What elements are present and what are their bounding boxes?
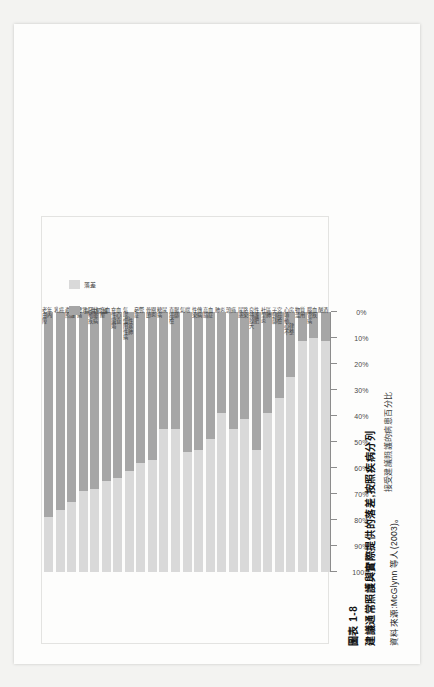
bar-segment-care	[56, 312, 65, 510]
category-label: 酗酒	[318, 308, 330, 313]
chart-panel: 100%90%80%70%60%50%40%30%20%10%0% 老年白內障乳…	[39, 216, 395, 646]
category-label: 社區型肺炎	[261, 308, 273, 324]
bar-row	[240, 312, 249, 572]
bar-row	[194, 312, 203, 572]
rotated-figure-block: 100%90%80%70%60%50%40%30%20%10%0% 老年白內障乳…	[31, 36, 403, 652]
bar-segment-gap	[275, 398, 284, 572]
bar-row	[79, 312, 88, 572]
bar-row	[298, 312, 307, 572]
legend-item: 落差	[69, 280, 96, 289]
bar-segment-gap	[206, 439, 215, 572]
bar-row	[102, 312, 111, 572]
bar-segment-gap	[44, 517, 53, 572]
bar-segment-gap	[159, 429, 168, 572]
bar-row	[171, 312, 180, 572]
bar-segment-gap	[240, 419, 249, 572]
category-label: 物質濫用	[295, 308, 307, 319]
category-label: 充血性心臟衰竭	[111, 308, 123, 330]
bar-segment-care	[217, 312, 226, 413]
category-label: 氣喘	[180, 308, 192, 313]
bar-row	[286, 312, 295, 572]
bar-segment-care	[321, 312, 330, 341]
bar-row	[125, 312, 134, 572]
axis-tick	[331, 337, 337, 338]
book-page: 100%90%80%70%60%50%40%30%20%10%0% 老年白內障乳…	[14, 24, 420, 664]
category-label: 良性攝護腺肥大	[249, 308, 261, 330]
bar-segment-gap	[56, 510, 65, 572]
bar-segment-care	[159, 312, 168, 429]
bar-segment-care	[136, 312, 145, 463]
plot-area	[43, 312, 331, 572]
axis-tick	[331, 545, 337, 546]
bar-row	[113, 312, 122, 572]
bar-segment-care	[240, 312, 249, 419]
bar-row	[183, 312, 192, 572]
bar-segment-care	[194, 312, 203, 450]
bar-segment-care	[171, 312, 180, 429]
bar-segment-care	[229, 312, 238, 429]
legend-swatch	[69, 280, 80, 289]
bar-segment-care	[67, 312, 76, 502]
bar-segment-gap	[252, 450, 261, 572]
bar-segment-gap	[67, 502, 76, 572]
bar-row	[90, 312, 99, 572]
axis-tick	[331, 389, 337, 390]
bar-segment-gap	[229, 429, 238, 572]
bar-row	[321, 312, 330, 572]
category-label: 直腸癌篩檢	[169, 308, 181, 324]
category-label: 肺炎	[215, 308, 227, 313]
bar-segment-care	[44, 312, 53, 517]
bar-segment-care	[275, 312, 284, 398]
category-label: 心房顫動、心律不整	[284, 308, 296, 335]
bar-segment-care	[102, 312, 111, 481]
category-label: 乳癌	[54, 308, 66, 313]
figure-source: 資料來源:McGlynn 等人(2003)。	[387, 216, 399, 646]
category-label: 憂鬱症	[134, 308, 146, 319]
category-label: 骨關節炎	[146, 308, 158, 319]
bar-segment-gap	[286, 377, 295, 572]
bar-row	[275, 312, 284, 572]
legend-item: 提供照護	[69, 306, 108, 315]
value-axis-line	[330, 312, 331, 572]
bar-row	[252, 312, 261, 572]
category-label: 腦血管疾病	[307, 308, 319, 324]
bar-segment-gap	[298, 341, 307, 572]
category-label: 高血脂症	[203, 308, 215, 319]
axis-tick	[331, 467, 337, 468]
bar-row	[56, 312, 65, 572]
bar-segment-gap	[90, 489, 99, 572]
bar-row	[44, 312, 53, 572]
axis-tick	[331, 441, 337, 442]
category-label: 糖尿病	[157, 308, 169, 319]
bar-segment-care	[183, 312, 192, 452]
figure-title: 建議通常照護與實際提供的落差,按照疾病分列	[362, 216, 377, 646]
category-label: 性傳染病	[192, 308, 204, 319]
bar-segment-gap	[194, 450, 203, 572]
legend-label: 提供照護	[84, 306, 108, 315]
category-label: 頭痛	[226, 308, 238, 313]
axis-tick	[331, 363, 337, 364]
bar-segment-gap	[125, 471, 134, 572]
bar-segment-care	[263, 312, 272, 413]
bar-row	[309, 312, 318, 572]
bar-row	[159, 312, 168, 572]
bar-segment-care	[113, 312, 122, 478]
bar-segment-gap	[79, 491, 88, 572]
category-label: 老年白內障	[42, 308, 54, 324]
figure-caption: 圖表 1-8 建議通常照護與實際提供的落差,按照疾病分列 資料來源:McGlyn…	[345, 216, 399, 646]
scanned-page: 100%90%80%70%60%50%40%30%20%10%0% 老年白內障乳…	[0, 0, 434, 687]
bar-row	[206, 312, 215, 572]
axis-tick	[331, 571, 337, 572]
legend-swatch	[69, 306, 80, 315]
axis-tick	[331, 415, 337, 416]
axis-tick	[331, 311, 337, 312]
bar-segment-gap	[102, 481, 111, 572]
axis-tick	[331, 519, 337, 520]
category-label: 氣喘、慢性阻塞性肺病	[123, 308, 135, 341]
category-label: 子宮頸癌篩檢	[272, 308, 284, 324]
bar-row	[148, 312, 157, 572]
category-label: 尿路感染	[238, 308, 250, 319]
bar-segment-gap	[171, 429, 180, 572]
bar-segment-gap	[217, 413, 226, 572]
bar-row	[136, 312, 145, 572]
